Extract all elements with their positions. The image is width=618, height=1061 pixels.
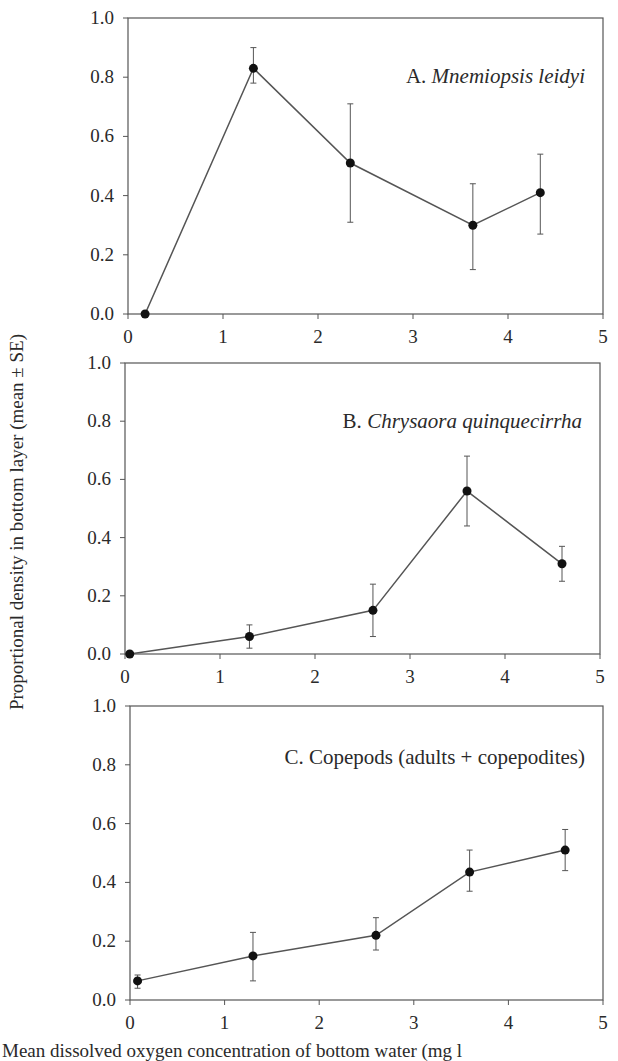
data-point xyxy=(248,951,257,960)
panel-title-species: Mnemiopsis leidyi xyxy=(431,64,586,88)
data-point xyxy=(133,976,142,985)
y-tick-label: 0.8 xyxy=(92,754,116,775)
data-point xyxy=(245,632,254,641)
y-tick-label: 0.6 xyxy=(90,125,114,146)
y-tick-label: 0.6 xyxy=(92,813,116,834)
y-tick-label: 0.2 xyxy=(92,930,116,951)
data-line xyxy=(130,491,562,654)
y-tick-label: 0.8 xyxy=(87,410,111,431)
x-tick-label: 5 xyxy=(598,1012,608,1033)
data-point xyxy=(558,559,567,568)
y-tick-label: 0.6 xyxy=(87,468,111,489)
plot-frame xyxy=(128,18,603,314)
x-tick-label: 5 xyxy=(598,326,608,347)
y-tick-label: 0.4 xyxy=(90,185,114,206)
data-line xyxy=(145,68,540,314)
panel-title-prefix: C. Copepods (adults + copepodites) xyxy=(284,745,585,769)
data-point xyxy=(463,487,472,496)
data-point xyxy=(249,64,258,73)
x-tick-label: 2 xyxy=(310,666,320,687)
x-tick-label: 0 xyxy=(123,326,133,347)
panel-a-mnemiopsis: 0.00.20.40.60.81.0012345A. Mnemiopsis le… xyxy=(90,7,608,347)
data-point xyxy=(561,846,570,855)
x-tick-label: 3 xyxy=(408,326,418,347)
panel-title-prefix: A. xyxy=(406,64,432,88)
y-axis-label: Proportional density in bottom layer (me… xyxy=(6,334,28,710)
x-tick-label: 0 xyxy=(120,666,130,687)
data-point xyxy=(371,931,380,940)
panel-title-species: Chrysaora quinquecirrha xyxy=(367,409,582,433)
data-point xyxy=(125,650,134,659)
y-tick-label: 0.2 xyxy=(87,585,111,606)
panel-title: A. Mnemiopsis leidyi xyxy=(406,64,585,88)
x-tick-label: 4 xyxy=(503,326,513,347)
x-tick-label: 2 xyxy=(313,326,323,347)
x-tick-label: 2 xyxy=(314,1012,324,1033)
panel-title-prefix: B. xyxy=(343,409,368,433)
x-tick-label: 1 xyxy=(220,1012,230,1033)
data-point xyxy=(141,310,150,319)
data-point xyxy=(368,606,377,615)
y-tick-label: 0.8 xyxy=(90,66,114,87)
y-tick-label: 1.0 xyxy=(92,695,116,716)
data-point xyxy=(536,188,545,197)
y-tick-label: 0.2 xyxy=(90,244,114,265)
x-tick-label: 0 xyxy=(125,1012,135,1033)
y-tick-label: 1.0 xyxy=(90,7,114,28)
panel-title: C. Copepods (adults + copepodites) xyxy=(284,745,585,769)
panel-title: B. Chrysaora quinquecirrha xyxy=(343,409,582,433)
data-point xyxy=(346,159,355,168)
figure-canvas: 0.00.20.40.60.81.0012345A. Mnemiopsis le… xyxy=(0,0,618,1061)
panel-c-copepods: 0.00.20.40.60.81.0012345C. Copepods (adu… xyxy=(92,695,608,1033)
x-tick-label: 4 xyxy=(504,1012,514,1033)
x-tick-label: 4 xyxy=(500,666,510,687)
x-tick-label: 1 xyxy=(215,666,225,687)
data-point xyxy=(468,221,477,230)
panel-b-chrysaora: 0.00.20.40.60.81.0012345B. Chrysaora qui… xyxy=(87,352,605,687)
data-point xyxy=(465,868,474,877)
y-tick-label: 1.0 xyxy=(87,352,111,373)
y-tick-label: 0.4 xyxy=(87,527,111,548)
x-tick-label: 1 xyxy=(218,326,228,347)
x-tick-label: 3 xyxy=(405,666,415,687)
y-tick-label: 0.0 xyxy=(92,989,116,1010)
x-tick-label: 5 xyxy=(595,666,605,687)
y-tick-label: 0.4 xyxy=(92,871,116,892)
plot-frame xyxy=(125,363,600,654)
data-line xyxy=(138,850,566,981)
y-tick-label: 0.0 xyxy=(87,643,111,664)
x-axis-label: Mean dissolved oxygen concentration of b… xyxy=(2,1040,462,1061)
y-tick-label: 0.0 xyxy=(90,303,114,324)
x-tick-label: 3 xyxy=(409,1012,419,1033)
